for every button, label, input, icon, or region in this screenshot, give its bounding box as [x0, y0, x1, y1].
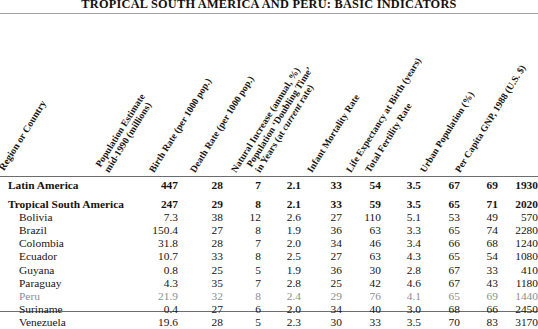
table-cell: 68: [420, 303, 460, 316]
table-cell: 2.0: [261, 303, 301, 316]
row-label: Tropical South America: [8, 198, 124, 211]
table-cell: 247: [118, 198, 178, 211]
table-cell: 32: [183, 290, 223, 303]
table-cell: 33: [302, 179, 342, 192]
table-cell: 27: [302, 211, 342, 224]
table-row: Colombia31.82872.034463.466681240: [0, 237, 538, 250]
table-cell: 34: [302, 237, 342, 250]
table-cell: 25: [302, 277, 342, 290]
table-cell: 4.6: [381, 277, 421, 290]
table-cell: 1180: [486, 277, 538, 290]
table-cell: 54: [341, 179, 381, 192]
row-label: Peru: [19, 290, 40, 303]
row-label: Bolivia: [19, 211, 53, 224]
table-cell: 33: [302, 198, 342, 211]
table-cell: 19.6: [118, 316, 178, 329]
table-cell: 1930: [486, 179, 538, 192]
table-cell: 70: [420, 316, 460, 329]
table-cell: 27: [183, 303, 223, 316]
table-cell: 8: [221, 250, 261, 263]
table-row: Guyana0.82551.936302.86733410: [0, 264, 538, 277]
table-cell: 29: [183, 198, 223, 211]
table-row: Tropical South America2472982.133593.565…: [0, 198, 538, 211]
table-cell: 30: [341, 264, 381, 277]
table-cell: 30: [302, 316, 342, 329]
rule-under-header: [0, 176, 538, 177]
table-cell: 7: [221, 179, 261, 192]
table-cell: 3.5: [381, 316, 421, 329]
column-header-life-expectancy: Life Expectancy at Birth (years): [344, 56, 423, 174]
table-row: Ecuador10.73382.527634.365541080: [0, 250, 538, 263]
table-cell: 21.9: [118, 290, 178, 303]
table-cell: 1240: [486, 237, 538, 250]
table-cell: 3.5: [381, 179, 421, 192]
table-cell: 7: [221, 277, 261, 290]
row-label: Paraguay: [19, 277, 61, 290]
table-cell: 29: [302, 290, 342, 303]
column-header-population-estimate: Population Estimatemid-1990 (millions): [94, 92, 156, 174]
table-cell: 2.8: [261, 277, 301, 290]
column-header-band: Region or Country Population Estimatemid…: [0, 14, 538, 176]
table-row: Latin America4472872.133543.567691930: [0, 179, 538, 192]
table-cell: 4.3: [118, 277, 178, 290]
table-cell: 36: [302, 264, 342, 277]
table-cell: 1080: [486, 250, 538, 263]
table-cell: 410: [486, 264, 538, 277]
table-cell: 67: [420, 264, 460, 277]
row-label: Latin America: [8, 179, 79, 192]
table-cell: 0.4: [118, 303, 178, 316]
table-cell: 4.1: [381, 290, 421, 303]
table-cell: 1.9: [261, 224, 301, 237]
table-cell: 67: [420, 179, 460, 192]
table-cell: 12: [221, 211, 261, 224]
table-cell: 2450: [486, 303, 538, 316]
table-cell: 7.3: [118, 211, 178, 224]
table-cell: 36: [302, 224, 342, 237]
table-row: Bolivia7.338122.6271105.15349570: [0, 211, 538, 224]
table-cell: 2.3: [261, 316, 301, 329]
table-cell: 2.1: [261, 179, 301, 192]
table-cell: 40: [341, 303, 381, 316]
table-cell: 28: [183, 179, 223, 192]
table-cell: 33: [341, 316, 381, 329]
table-cell: 35: [183, 277, 223, 290]
table-cell: 46: [341, 237, 381, 250]
row-label: Guyana: [19, 264, 54, 277]
column-header-per-capita-gnp: Per Capita GNP, 1988 (U.S. $): [453, 63, 528, 174]
table-row: Suriname0.42762.034403.068662450: [0, 303, 538, 316]
table-cell: 27: [302, 250, 342, 263]
table-cell: 67: [420, 277, 460, 290]
table-cell: 42: [341, 277, 381, 290]
table-cell: 570: [486, 211, 538, 224]
table-cell: 66: [420, 237, 460, 250]
row-label: Venezuela: [19, 316, 66, 329]
table-cell: 3.3: [381, 224, 421, 237]
table-cell: 0.8: [118, 264, 178, 277]
table-cell: 8: [221, 198, 261, 211]
table-cell: 2020: [486, 198, 538, 211]
table-cell: 2.0: [261, 237, 301, 250]
data-table-body: Latin America4472872.133543.567691930Tro…: [0, 179, 538, 329]
table-cell: 447: [118, 179, 178, 192]
table-cell: 27: [183, 224, 223, 237]
table-cell: 110: [341, 211, 381, 224]
table-cell: 53: [420, 211, 460, 224]
table-cell: 28: [183, 237, 223, 250]
row-label: Brazil: [19, 224, 47, 237]
table-cell: 65: [420, 198, 460, 211]
table-cell: 59: [341, 198, 381, 211]
table-row: Venezuela19.62852.330333.570833170: [0, 316, 538, 329]
table-cell: 2.5: [261, 250, 301, 263]
table-cell: 8: [221, 224, 261, 237]
table-cell: 7: [221, 237, 261, 250]
table-cell: 1440: [486, 290, 538, 303]
table-cell: 10.7: [118, 250, 178, 263]
row-label: Ecuador: [19, 250, 57, 263]
row-label: Suriname: [19, 303, 63, 316]
table-cell: 2.6: [261, 211, 301, 224]
table-cell: 3.4: [381, 237, 421, 250]
table-cell: 2280: [486, 224, 538, 237]
table-row: Brazil150.42781.936633.365742280: [0, 224, 538, 237]
table-row: Paraguay4.33572.825424.667431180: [0, 277, 538, 290]
